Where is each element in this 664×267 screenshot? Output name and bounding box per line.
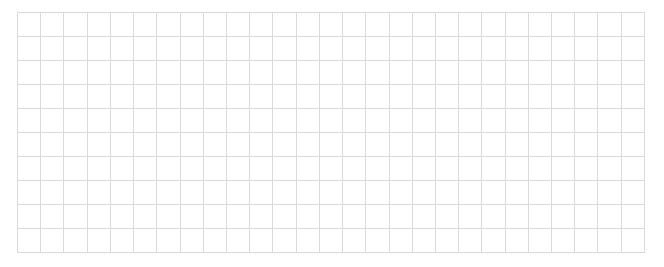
grid-cell[interactable]: [505, 109, 528, 133]
grid-cell[interactable]: [459, 205, 482, 229]
grid-cell[interactable]: [296, 109, 319, 133]
grid-cell[interactable]: [41, 109, 64, 133]
grid-cell[interactable]: [459, 85, 482, 109]
grid-cell[interactable]: [87, 229, 110, 253]
grid-cell[interactable]: [505, 205, 528, 229]
grid-cell[interactable]: [505, 37, 528, 61]
grid-cell[interactable]: [110, 61, 133, 85]
grid-cell[interactable]: [41, 157, 64, 181]
grid-cell[interactable]: [505, 61, 528, 85]
grid-cell[interactable]: [18, 133, 41, 157]
grid-cell[interactable]: [528, 205, 551, 229]
grid-cell[interactable]: [319, 181, 342, 205]
grid-cell[interactable]: [180, 133, 203, 157]
grid-cell[interactable]: [505, 157, 528, 181]
grid-cell[interactable]: [87, 133, 110, 157]
grid-cell[interactable]: [273, 13, 296, 37]
grid-cell[interactable]: [87, 85, 110, 109]
grid-cell[interactable]: [575, 109, 598, 133]
grid-cell[interactable]: [412, 109, 435, 133]
grid-cell[interactable]: [552, 157, 575, 181]
grid-cell[interactable]: [203, 205, 226, 229]
grid-cell[interactable]: [64, 13, 87, 37]
grid-cell[interactable]: [203, 13, 226, 37]
grid-cell[interactable]: [575, 13, 598, 37]
grid-cell[interactable]: [41, 85, 64, 109]
grid-cell[interactable]: [157, 61, 180, 85]
grid-cell[interactable]: [18, 229, 41, 253]
grid-cell[interactable]: [528, 181, 551, 205]
grid-cell[interactable]: [110, 13, 133, 37]
grid-cell[interactable]: [203, 157, 226, 181]
grid-cell[interactable]: [203, 109, 226, 133]
grid-cell[interactable]: [435, 85, 458, 109]
grid-cell[interactable]: [180, 13, 203, 37]
grid-cell[interactable]: [412, 13, 435, 37]
grid-cell[interactable]: [296, 37, 319, 61]
grid-cell[interactable]: [180, 37, 203, 61]
grid-cell[interactable]: [296, 85, 319, 109]
grid-cell[interactable]: [598, 13, 621, 37]
grid-cell[interactable]: [18, 85, 41, 109]
grid-cell[interactable]: [459, 181, 482, 205]
grid-cell[interactable]: [226, 37, 249, 61]
grid-cell[interactable]: [110, 181, 133, 205]
grid-cell[interactable]: [64, 229, 87, 253]
grid-cell[interactable]: [552, 109, 575, 133]
grid-cell[interactable]: [250, 133, 273, 157]
grid-cell[interactable]: [552, 133, 575, 157]
grid-cell[interactable]: [87, 37, 110, 61]
grid-cell[interactable]: [435, 157, 458, 181]
grid-cell[interactable]: [598, 157, 621, 181]
grid-cell[interactable]: [250, 85, 273, 109]
grid-cell[interactable]: [273, 109, 296, 133]
grid-cell[interactable]: [598, 181, 621, 205]
grid-cell[interactable]: [389, 133, 412, 157]
grid-cell[interactable]: [226, 229, 249, 253]
grid-cell[interactable]: [366, 181, 389, 205]
grid-cell[interactable]: [621, 85, 644, 109]
grid-cell[interactable]: [366, 157, 389, 181]
grid-cell[interactable]: [528, 109, 551, 133]
grid-cell[interactable]: [621, 229, 644, 253]
grid-cell[interactable]: [389, 205, 412, 229]
grid-cell[interactable]: [226, 13, 249, 37]
grid-cell[interactable]: [389, 181, 412, 205]
grid-cell[interactable]: [482, 157, 505, 181]
grid-cell[interactable]: [134, 205, 157, 229]
grid-cell[interactable]: [319, 13, 342, 37]
grid-cell[interactable]: [203, 37, 226, 61]
grid-cell[interactable]: [343, 85, 366, 109]
grid-cell[interactable]: [203, 85, 226, 109]
grid-cell[interactable]: [41, 13, 64, 37]
grid-cell[interactable]: [575, 229, 598, 253]
grid-cell[interactable]: [435, 13, 458, 37]
grid-cell[interactable]: [110, 229, 133, 253]
grid-cell[interactable]: [319, 157, 342, 181]
grid-cell[interactable]: [598, 133, 621, 157]
grid-cell[interactable]: [273, 181, 296, 205]
grid-cell[interactable]: [203, 61, 226, 85]
grid-cell[interactable]: [459, 37, 482, 61]
grid-cell[interactable]: [482, 205, 505, 229]
grid-cell[interactable]: [459, 109, 482, 133]
grid-cell[interactable]: [18, 205, 41, 229]
grid-cell[interactable]: [459, 229, 482, 253]
grid-cell[interactable]: [482, 109, 505, 133]
grid-cell[interactable]: [366, 85, 389, 109]
grid-cell[interactable]: [157, 109, 180, 133]
grid-cell[interactable]: [482, 61, 505, 85]
grid-cell[interactable]: [598, 85, 621, 109]
grid-cell[interactable]: [435, 205, 458, 229]
grid-cell[interactable]: [575, 133, 598, 157]
grid-cell[interactable]: [621, 181, 644, 205]
grid-cell[interactable]: [598, 61, 621, 85]
grid-cell[interactable]: [134, 37, 157, 61]
grid-cell[interactable]: [482, 85, 505, 109]
grid-cell[interactable]: [250, 61, 273, 85]
grid-cell[interactable]: [343, 157, 366, 181]
grid-cell[interactable]: [296, 13, 319, 37]
grid-cell[interactable]: [412, 133, 435, 157]
grid-cell[interactable]: [134, 13, 157, 37]
grid-cell[interactable]: [226, 109, 249, 133]
